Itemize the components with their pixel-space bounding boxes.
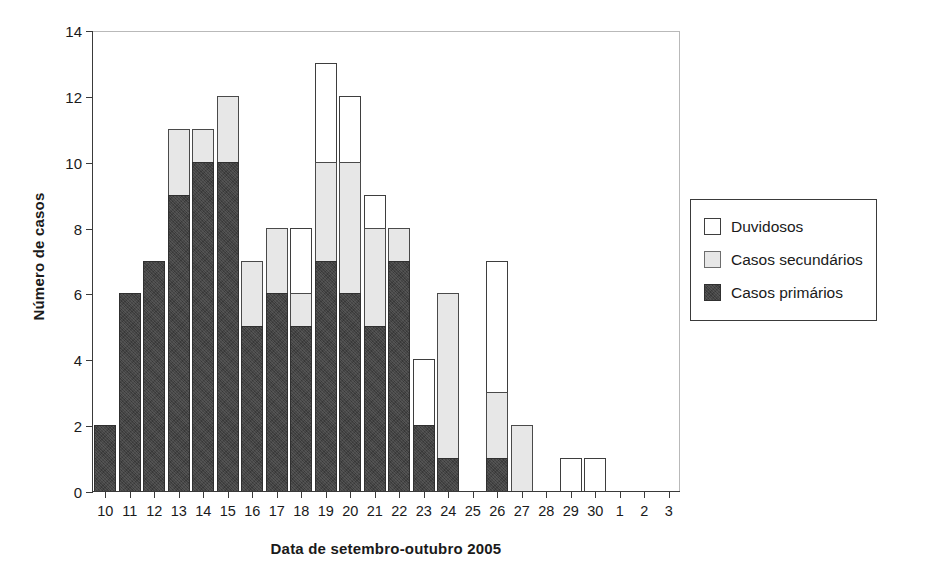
x-tick-label: 29 [563, 503, 579, 519]
bar-segment-secondary [486, 392, 508, 458]
x-tick-label: 27 [514, 503, 530, 519]
bar-16[interactable] [241, 261, 263, 492]
bar-18[interactable] [290, 228, 312, 491]
x-tick-label: 26 [489, 503, 505, 519]
x-tick-mark [375, 491, 376, 498]
bar-segment-primary [388, 261, 410, 492]
y-tick-label: 4 [74, 352, 82, 369]
y-tick-label: 12 [65, 88, 82, 105]
x-tick-mark [497, 491, 498, 498]
x-tick-mark [571, 491, 572, 498]
bar-segment-primary [217, 162, 239, 491]
bar-segment-primary [241, 326, 263, 491]
x-tick-label: 17 [269, 503, 285, 519]
bar-27[interactable] [511, 425, 533, 491]
bar-10[interactable] [94, 425, 116, 491]
bar-segment-secondary [168, 129, 190, 195]
x-tick-mark [522, 491, 523, 498]
bar-segment-doubtful [364, 195, 386, 228]
bar-13[interactable] [168, 129, 190, 491]
y-tick-label: 0 [74, 484, 82, 501]
bar-segment-primary [315, 261, 337, 492]
bar-segment-primary [486, 458, 508, 491]
bar-19[interactable] [315, 63, 337, 491]
x-tick-mark [399, 491, 400, 498]
chart-figure: Número de casos 02468101214 101112131415… [0, 0, 927, 577]
x-tick-mark [277, 491, 278, 498]
bar-29[interactable] [560, 458, 582, 491]
x-tick-mark [228, 491, 229, 498]
bar-segment-secondary [339, 162, 361, 294]
legend-item-label: Duvidosos [731, 218, 803, 236]
x-tick-label: 22 [391, 503, 407, 519]
legend-item-primary[interactable]: Casos primários [704, 276, 863, 309]
legend-item-doubtful[interactable]: Duvidosos [704, 210, 863, 243]
x-tick-label: 23 [416, 503, 432, 519]
x-tick-label: 19 [318, 503, 334, 519]
plot-area: 02468101214 1011121314151617181920212223… [92, 31, 680, 492]
x-tick-mark [473, 491, 474, 498]
y-tick-mark [86, 229, 93, 230]
y-tick-mark [86, 426, 93, 427]
bar-segment-secondary [364, 228, 386, 327]
bar-20[interactable] [339, 96, 361, 491]
x-tick-mark [179, 491, 180, 498]
bar-15[interactable] [217, 96, 239, 491]
bar-21[interactable] [364, 195, 386, 491]
bar-segment-secondary [290, 293, 312, 326]
bar-14[interactable] [192, 129, 214, 491]
bar-segment-doubtful [486, 261, 508, 393]
x-tick-mark [620, 491, 621, 498]
x-tick-mark [448, 491, 449, 498]
x-tick-label: 21 [367, 503, 383, 519]
bar-segment-secondary [388, 228, 410, 261]
y-axis-title: Número de casos [30, 157, 47, 357]
x-tick-mark [424, 491, 425, 498]
x-axis-title: Data de setembro-outubro 2005 [92, 540, 680, 557]
bar-segment-primary [364, 326, 386, 491]
x-tick-label: 20 [342, 503, 358, 519]
x-tick-label: 1 [616, 503, 624, 519]
bar-30[interactable] [584, 458, 606, 491]
x-tick-label: 16 [244, 503, 260, 519]
x-tick-mark [154, 491, 155, 498]
y-tick-label: 10 [65, 154, 82, 171]
bar-12[interactable] [143, 261, 165, 492]
bar-11[interactable] [119, 293, 141, 491]
y-tick-mark [86, 360, 93, 361]
x-tick-mark [326, 491, 327, 498]
x-tick-mark [301, 491, 302, 498]
bar-26[interactable] [486, 261, 508, 492]
bar-segment-doubtful [315, 63, 337, 162]
x-tick-label: 2 [640, 503, 648, 519]
bar-segment-secondary [266, 228, 288, 294]
bar-17[interactable] [266, 228, 288, 491]
bar-segment-secondary [192, 129, 214, 162]
y-tick-label: 6 [74, 286, 82, 303]
x-tick-label: 3 [665, 503, 673, 519]
legend-item-label: Casos secundários [731, 251, 863, 269]
x-tick-label: 13 [171, 503, 187, 519]
bar-segment-secondary [241, 261, 263, 327]
x-tick-label: 24 [440, 503, 456, 519]
chart-legend: DuvidososCasos secundáriosCasos primário… [690, 199, 877, 321]
bar-segment-primary [143, 261, 165, 492]
x-tick-mark [546, 491, 547, 498]
x-tick-label: 25 [465, 503, 481, 519]
bar-segment-secondary [511, 425, 533, 491]
bar-segment-doubtful [290, 228, 312, 294]
y-tick-mark [86, 294, 93, 295]
bar-23[interactable] [413, 359, 435, 491]
legend-swatch-icon [704, 284, 721, 301]
bar-segment-primary [339, 293, 361, 491]
x-tick-label: 12 [146, 503, 162, 519]
bar-segment-primary [94, 425, 116, 491]
bar-22[interactable] [388, 228, 410, 491]
bar-segment-primary [413, 425, 435, 491]
bar-24[interactable] [437, 293, 459, 491]
x-tick-mark [669, 491, 670, 498]
legend-item-secondary[interactable]: Casos secundários [704, 243, 863, 276]
x-tick-mark [130, 491, 131, 498]
bar-segment-primary [192, 162, 214, 491]
bar-segment-primary [437, 458, 459, 491]
